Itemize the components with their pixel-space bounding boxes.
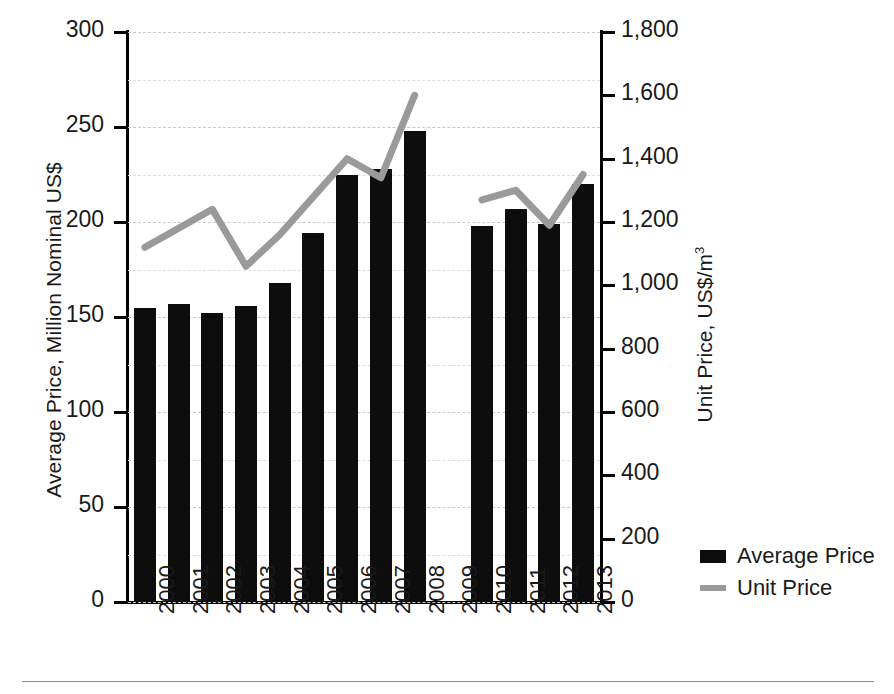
x-axis-tick-label: 2010 <box>491 565 517 614</box>
legend-swatch-bar-icon <box>700 550 726 563</box>
gridline-major <box>128 127 600 128</box>
y-axis-right-tick <box>602 474 615 477</box>
x-axis-tick-label: 2005 <box>322 565 348 614</box>
bar <box>471 226 493 602</box>
bar <box>201 313 223 602</box>
y-axis-left-tick <box>114 221 127 224</box>
y-axis-left-tick <box>114 31 127 34</box>
y-axis-left-tick-label: 300 <box>66 16 104 43</box>
bar <box>302 233 324 602</box>
x-axis-tick-label: 2006 <box>356 565 382 614</box>
y-axis-right-tick-label: 1,800 <box>621 16 679 43</box>
y-axis-right-tick <box>602 31 615 34</box>
x-axis-tick-label: 2009 <box>457 565 483 614</box>
y-axis-right-tick-label: 600 <box>621 396 659 423</box>
y-axis-left-tick <box>114 316 127 319</box>
y-axis-right-tick <box>602 221 615 224</box>
x-axis-tick-label: 2013 <box>592 565 618 614</box>
unit-price-line-segment-2 <box>482 175 583 226</box>
gridline-minor <box>128 460 600 461</box>
y-axis-left-tick-label: 50 <box>78 491 104 518</box>
legend-item-average-price: Average Price <box>700 540 875 572</box>
gridline-minor <box>128 365 600 366</box>
gridline-major <box>128 507 600 508</box>
y-axis-right-tick-label: 1,200 <box>621 206 679 233</box>
gridline-minor <box>128 175 600 176</box>
bar <box>235 306 257 602</box>
footer-divider <box>22 681 874 682</box>
y-axis-right-tick <box>602 94 615 97</box>
legend-label-average-price: Average Price <box>737 543 875 569</box>
x-axis-tick-label: 2011 <box>525 567 551 614</box>
y-axis-right-tick-label: 1,600 <box>621 79 679 106</box>
y-axis-right-tick-label: 400 <box>621 459 659 486</box>
y-axis-right-tick-label: 1,400 <box>621 143 679 170</box>
plot-area <box>128 32 600 602</box>
y-axis-title-left: Average Price, Million Nominal US$ <box>42 70 66 590</box>
y-axis-right-tick-label: 200 <box>621 523 659 550</box>
y-axis-right-tick <box>602 284 615 287</box>
x-axis-tick-label: 2012 <box>558 565 584 614</box>
x-axis-tick-label: 2000 <box>154 565 180 614</box>
y-axis-left-tick-label: 150 <box>66 301 104 328</box>
gridline-major <box>128 412 600 413</box>
x-axis-tick-label: 2002 <box>221 565 247 614</box>
y-axis-left-tick <box>114 411 127 414</box>
y-axis-left-tick-label: 0 <box>91 586 104 613</box>
bar <box>168 304 190 602</box>
x-axis-tick-label: 2001 <box>188 565 214 614</box>
x-axis-tick-label: 2004 <box>289 565 315 614</box>
gridline-minor <box>128 270 600 271</box>
y-axis-left-tick-label: 100 <box>66 396 104 423</box>
chart-figure: Average Price, Million Nominal US$ Unit … <box>0 0 894 694</box>
bar <box>538 224 560 602</box>
y-axis-left-tick <box>114 126 127 129</box>
legend-swatch-line-icon <box>700 585 726 591</box>
bar <box>370 169 392 602</box>
bar <box>134 308 156 603</box>
y-axis-left-tick <box>114 601 127 604</box>
y-axis-right-tick <box>602 538 615 541</box>
legend-label-unit-price: Unit Price <box>737 575 832 601</box>
gridline-major <box>128 317 600 318</box>
y-axis-right-tick <box>602 348 615 351</box>
x-axis-tick-label: 2007 <box>390 565 416 614</box>
y-axis-left-tick <box>114 506 127 509</box>
legend: Average Price Unit Price <box>700 540 875 604</box>
bar <box>404 131 426 602</box>
gridline-major <box>128 222 600 223</box>
y-axis-right-tick <box>602 158 615 161</box>
legend-item-unit-price: Unit Price <box>700 572 875 604</box>
y-axis-right-tick <box>602 411 615 414</box>
gridline-minor <box>128 555 600 556</box>
bar <box>505 209 527 602</box>
y-axis-left-tick-label: 250 <box>66 111 104 138</box>
y-axis-title-right: Unit Price, US$/m3 <box>692 75 717 595</box>
bar <box>269 283 291 602</box>
y-axis-right-tick-label: 0 <box>621 586 634 613</box>
y-axis-right-spine <box>600 30 603 604</box>
bar <box>336 175 358 603</box>
gridline-major <box>128 32 600 33</box>
y-axis-title-right-exponent: 3 <box>692 247 707 254</box>
bar <box>572 184 594 602</box>
x-axis-tick-label: 2008 <box>424 565 450 614</box>
y-axis-right-tick-label: 800 <box>621 333 659 360</box>
y-axis-right-tick-label: 1,000 <box>621 269 679 296</box>
gridline-minor <box>128 80 600 81</box>
x-axis-tick-label: 2003 <box>255 565 281 614</box>
y-axis-left-tick-label: 200 <box>66 206 104 233</box>
y-axis-title-right-text: Unit Price, US$/m <box>693 254 716 423</box>
